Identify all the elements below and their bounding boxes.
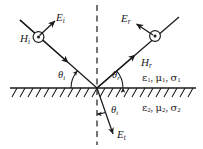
reflected-electric-field-vector — [137, 24, 154, 35]
theta-t-sub: t — [116, 109, 118, 116]
physics-diagram-figure: Ei Hi Er Hr Et θi θr θt ε1, μ1, σ1 ε2, μ… — [0, 0, 203, 149]
label-angle-incidence: θi — [58, 70, 65, 81]
incident-H-base: H — [20, 32, 28, 44]
transmitted-E-base: E — [117, 128, 124, 140]
label-incident-electric-field: Ei — [56, 12, 65, 25]
reflected-E-sub: r — [128, 18, 131, 26]
reflected-magnetic-field-marker — [150, 31, 161, 42]
label-medium-1-properties: ε1, μ1, σ1 — [142, 73, 181, 84]
reflected-H-sub: r — [149, 62, 152, 70]
label-reflected-magnetic-field: Hr — [141, 57, 152, 70]
incident-H-sub: i — [28, 38, 30, 46]
label-incident-magnetic-field: Hi — [20, 33, 30, 46]
medium2-sigma-sub: 2 — [177, 106, 180, 113]
interface-hatching — [12, 88, 193, 97]
theta-i-sub: i — [63, 74, 65, 81]
incident-E-base: E — [56, 11, 63, 23]
label-reflected-electric-field: Er — [121, 13, 131, 26]
transmitted-E-sub: t — [124, 134, 126, 142]
angle-arc-incidence — [71, 71, 77, 88]
label-angle-transmission: θt — [111, 105, 118, 116]
reflected-H-base: H — [141, 56, 149, 68]
label-medium-2-properties: ε2, μ2, σ2 — [142, 103, 181, 114]
medium1-sigma-sub: 1 — [177, 76, 180, 83]
reflected-E-base: E — [121, 12, 128, 24]
label-angle-reflection: θr — [112, 70, 120, 81]
incident-electric-field-vector — [40, 21, 56, 36]
angle-arc-transmission — [97, 113, 106, 114]
theta-r-sub: r — [117, 74, 120, 81]
label-transmitted-electric-field: Et — [117, 129, 126, 142]
incident-E-sub: i — [63, 17, 65, 25]
